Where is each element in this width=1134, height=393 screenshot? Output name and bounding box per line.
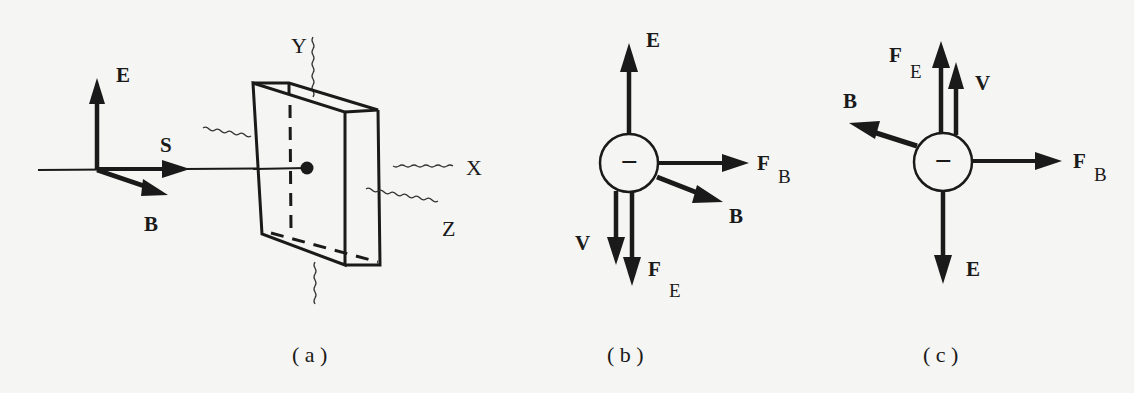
z-axis-line-front [366,188,438,202]
fb-vector-c-arrowhead [1035,152,1062,170]
x-axis-line [393,165,453,167]
fe-subscript-c: E [910,61,922,82]
panel-a: E S B Y X Z ( a ) [38,33,482,367]
b-vector-c-arrowhead [849,121,880,139]
e-label-b: E [646,28,660,52]
v-vector-b-arrowhead [607,237,625,265]
caption-c: ( c ) [923,342,958,367]
v-label-c: V [975,71,990,95]
b-label-a: B [144,212,158,236]
s-vector-arrowhead [162,160,190,178]
b-vector-c [870,131,917,146]
incident-ray-inside [253,168,307,169]
fe-label-b: F [648,257,661,281]
s-label: S [160,133,172,157]
electron-sign-b: − [620,145,637,178]
e-vector-c-arrowhead [934,255,952,284]
e-vector-b-arrowhead [620,43,638,72]
fe-subscript-b: E [669,280,681,301]
fb-subscript-c: B [1094,164,1107,185]
b-vector-a [97,170,150,188]
b-vector-b-arrowhead [692,185,723,203]
crystal-slab [253,83,380,265]
fe-label-c: F [889,43,902,67]
y-axis-label: Y [291,33,307,58]
fb-subscript-b: B [778,166,791,187]
x-axis-label: X [466,155,482,180]
caption-b: ( b ) [607,342,644,367]
b-vector-a-arrowhead [141,179,168,196]
y-axis-line-top [312,37,314,97]
fe-vector-b-arrowhead [623,257,641,286]
figure-canvas: E S B Y X Z ( a ) − E F B B V F E ( b ) [0,0,1134,393]
b-label-c: B [843,89,857,113]
y-axis-line-bottom [314,262,316,304]
fb-vector-b-arrowhead [722,154,749,172]
fb-label-c: F [1073,149,1086,173]
panel-c: − F E V B F B E ( c ) [843,41,1107,367]
impact-point [301,162,314,175]
panel-b: − E F B B V F E ( b ) [575,28,791,367]
figure: E S B Y X Z ( a ) − E F B B V F E ( b ) [0,0,1134,393]
v-vector-c-arrowhead [948,62,964,89]
z-axis-label: Z [442,216,455,241]
e-label-c: E [966,257,980,281]
z-axis-line-back [203,127,251,137]
b-label-b: B [729,204,743,228]
electron-sign-c: − [934,144,951,177]
fb-label-b: F [757,151,770,175]
caption-a: ( a ) [292,342,327,367]
e-label-a: E [116,63,130,87]
fe-vector-c-arrowhead [932,41,950,68]
v-label-b: V [575,231,590,255]
e-vector-a-arrowhead [89,78,105,104]
